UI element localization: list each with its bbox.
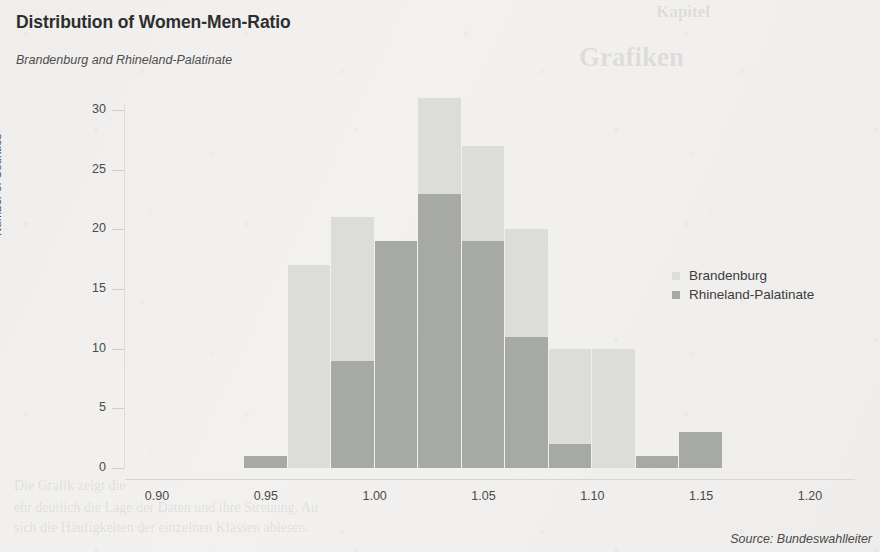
histogram-bar — [288, 265, 331, 468]
legend-label: Brandenburg — [689, 266, 767, 285]
histogram-bar — [331, 361, 374, 468]
x-tick-label: 0.90 — [127, 489, 187, 503]
legend-swatch-icon — [672, 291, 680, 299]
histogram-bar — [244, 456, 287, 468]
x-tick-label: 1.10 — [562, 489, 622, 503]
histogram-bar — [592, 349, 635, 468]
x-tick-label: 1.20 — [780, 489, 840, 503]
chart-legend: BrandenburgRhineland-Palatinate — [672, 266, 814, 304]
x-tick-label: 0.95 — [236, 489, 296, 503]
histogram-bar — [418, 194, 461, 468]
legend-item: Rhineland-Palatinate — [672, 285, 814, 304]
y-tick-mark — [112, 468, 124, 469]
histogram-bar — [636, 456, 679, 468]
x-tick-label: 1.15 — [671, 489, 731, 503]
histogram-bar — [462, 241, 505, 468]
x-axis-line — [125, 479, 855, 480]
legend-item: Brandenburg — [672, 266, 814, 285]
histogram-bar — [505, 337, 548, 468]
x-tick-label: 1.00 — [345, 489, 405, 503]
legend-swatch-icon — [672, 272, 680, 280]
histogram-bar — [375, 241, 418, 468]
source-note: Source: Bundeswahlleiter — [730, 532, 872, 546]
histogram-bar — [549, 444, 592, 468]
legend-label: Rhineland-Palatinate — [689, 285, 814, 304]
histogram-bar — [679, 432, 722, 468]
x-tick-label: 1.05 — [454, 489, 514, 503]
